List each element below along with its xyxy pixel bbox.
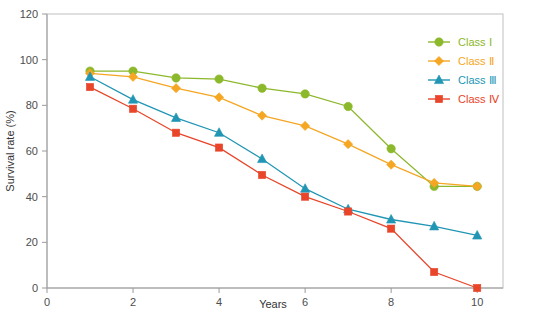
data-point [473,182,482,191]
x-tick-label: 8 [388,296,394,308]
y-tick-label: 20 [26,236,38,248]
y-axis-title: Survival rate (%) [4,110,16,191]
survival-rate-chart: 0204060801001200246810 Class ⅠClass ⅡCla… [0,0,544,317]
data-series [85,72,481,239]
data-point [172,74,180,82]
plot-frame [47,14,503,288]
series-line [90,77,477,236]
chart-canvas: 0204060801001200246810 Class ⅠClass ⅡCla… [0,0,544,317]
legend-item: Class Ⅲ [428,74,497,86]
data-point [258,84,266,92]
data-point [344,140,353,149]
series-line [90,73,477,186]
data-point [215,144,222,151]
data-point [387,145,395,153]
data-point [257,154,266,163]
chart-legend: Class ⅠClass ⅡClass ⅢClass Ⅳ [428,36,500,105]
x-tick-label: 0 [44,296,50,308]
data-point [345,208,352,215]
y-tick-label: 40 [26,191,38,203]
legend-item: Class Ⅱ [428,55,494,67]
data-point [215,75,223,83]
data-point [86,83,93,90]
data-point [171,84,180,93]
data-point [302,193,309,200]
legend-label: Class Ⅰ [458,36,492,48]
legend-label: Class Ⅳ [458,93,500,105]
y-tick-label: 100 [20,54,38,66]
data-series-group [85,67,481,292]
legend-marker [435,95,442,102]
series-line [90,71,477,186]
data-point [474,284,481,291]
data-series [85,69,481,191]
axis-tick-labels: 0204060801001200246810 [20,8,484,308]
x-tick-label: 2 [130,296,136,308]
legend-marker [434,56,443,65]
y-tick-label: 120 [20,8,38,20]
legend-label: Class Ⅲ [458,74,497,86]
x-tick-label: 10 [471,296,483,308]
data-point [257,111,266,120]
data-point [301,184,310,193]
legend-item: Class Ⅳ [428,93,500,105]
legend-label: Class Ⅱ [458,55,494,67]
data-point [431,268,438,275]
series-line [90,87,477,288]
data-point [301,121,310,130]
data-point [387,160,396,169]
plot-border [47,14,503,288]
data-series [86,67,482,191]
data-point [258,171,265,178]
y-tick-label: 0 [32,282,38,294]
x-tick-label: 4 [216,296,222,308]
x-tick-label: 6 [302,296,308,308]
data-point [344,102,352,110]
legend-item: Class Ⅰ [428,36,492,48]
data-point [301,90,309,98]
data-point [172,129,179,136]
data-point [214,93,223,102]
axis-ticks [42,14,477,293]
x-axis-title: Years [259,298,287,310]
y-tick-label: 80 [26,99,38,111]
data-point [129,105,136,112]
data-series [86,83,480,291]
data-point [388,225,395,232]
y-tick-label: 60 [26,145,38,157]
legend-marker [435,38,443,46]
data-point [128,95,137,104]
